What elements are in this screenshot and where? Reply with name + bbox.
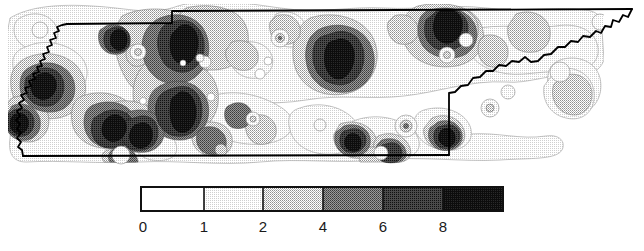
legend-band-1-2 [204,187,263,211]
legend-band-2-4 [263,187,323,211]
legend-band-6-8 [383,187,443,211]
legend-tick-label-8: 8 [439,218,447,235]
legend-band-0-1 [141,187,204,211]
southern-border [23,155,449,156]
legend-tick-label-0: 0 [139,218,147,235]
contour-map-figure: 0 1 2 4 6 8 [0,0,644,251]
legend-band-8-plus [443,187,503,211]
legend-tick-label-1: 1 [200,218,208,235]
map-and-legend-svg: 0 1 2 4 6 8 [0,0,644,251]
legend-tick-label-2: 2 [259,218,267,235]
legend-band-4-6 [323,187,383,211]
legend-tick-label-6: 6 [379,218,387,235]
legend-tick-label-4: 4 [319,218,327,235]
